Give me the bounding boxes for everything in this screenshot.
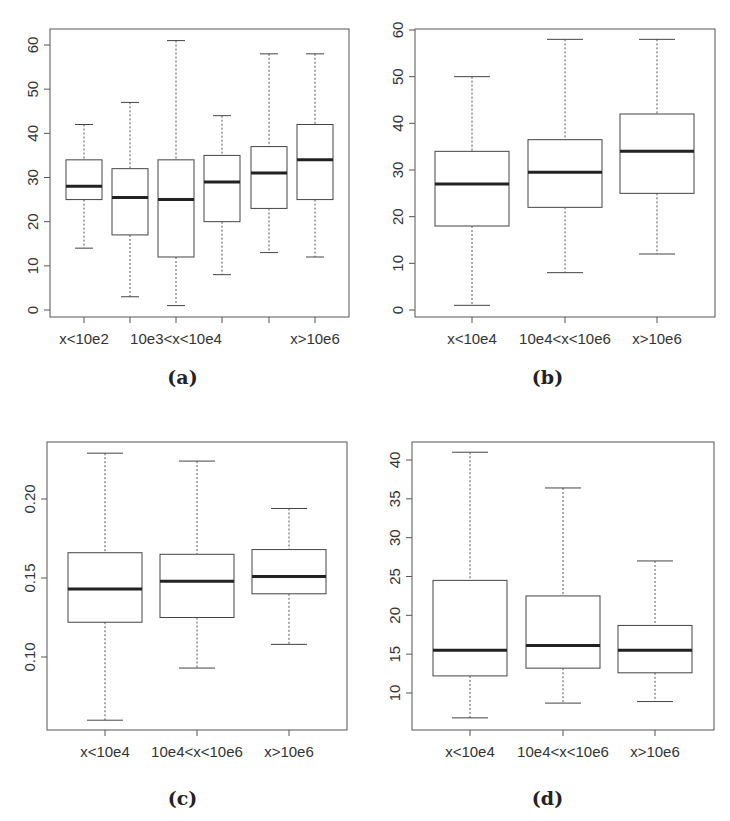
iqr-box [297, 125, 333, 200]
caption-d: (d) [365, 787, 730, 809]
x-tick-label: x>10e6 [290, 330, 340, 347]
y-tick-label: 15 [386, 646, 403, 663]
y-tick-label: 0.10 [21, 642, 38, 671]
caption-c: (c) [0, 787, 365, 809]
y-tick-label: 40 [24, 125, 41, 142]
iqr-box [433, 580, 507, 676]
x-tick-label: x>10e6 [630, 743, 680, 760]
boxplot-b: 0102030405060x<10e410e4<x<10e6x>10e6 [365, 0, 730, 410]
iqr-box [252, 550, 326, 594]
boxplot-d: 10152025303540x<10e410e4<x<10e6x>10e6 [365, 410, 730, 821]
y-tick-label: 25 [386, 568, 403, 585]
iqr-box [251, 147, 287, 209]
x-tick-label: x<10e2 [59, 330, 109, 347]
y-tick-label: 0 [24, 306, 41, 314]
iqr-box [68, 553, 142, 623]
panel-c: 0.100.150.20x<10e410e4<x<10e6x>10e6 (c) [0, 410, 365, 821]
iqr-box [112, 169, 148, 235]
x-tick-label: x<10e4 [80, 743, 130, 760]
y-tick-label: 40 [386, 452, 403, 469]
y-tick-label: 50 [24, 81, 41, 98]
caption-b: (b) [365, 366, 730, 388]
iqr-box [620, 114, 694, 193]
iqr-box [66, 160, 102, 200]
x-tick-label: x<10e4 [445, 743, 495, 760]
y-tick-label: 50 [389, 68, 406, 85]
y-tick-label: 30 [389, 162, 406, 179]
y-tick-label: 20 [389, 208, 406, 225]
y-tick-label: 35 [386, 490, 403, 507]
caption-a: (a) [0, 366, 365, 388]
iqr-box [435, 151, 509, 226]
panel-d: 10152025303540x<10e410e4<x<10e6x>10e6 (d… [365, 410, 730, 821]
panel-b: 0102030405060x<10e410e4<x<10e6x>10e6 (b) [365, 0, 730, 410]
iqr-box [158, 160, 194, 257]
y-tick-label: 40 [389, 115, 406, 132]
x-tick-label: 10e4<x<10e6 [517, 743, 609, 760]
x-tick-label: x>10e6 [632, 330, 682, 347]
y-tick-label: 10 [24, 257, 41, 274]
y-tick-label: 30 [24, 169, 41, 186]
y-tick-label: 10 [386, 685, 403, 702]
y-tick-label: 60 [389, 22, 406, 39]
x-tick-label: 10e4<x<10e6 [519, 330, 611, 347]
x-tick-label: x<10e4 [447, 330, 497, 347]
boxplot-a: 0102030405060x<10e210e3<x<10e4x>10e6 [0, 0, 365, 410]
y-tick-label: 0.20 [21, 484, 38, 513]
iqr-box [526, 596, 600, 668]
y-tick-label: 20 [24, 213, 41, 230]
x-tick-label: x>10e6 [264, 743, 314, 760]
y-tick-label: 10 [389, 255, 406, 272]
boxplot-c: 0.100.150.20x<10e410e4<x<10e6x>10e6 [0, 410, 365, 821]
y-tick-label: 0.15 [21, 563, 38, 592]
y-tick-label: 60 [24, 37, 41, 54]
panel-a: 0102030405060x<10e210e3<x<10e4x>10e6 (a) [0, 0, 365, 410]
x-tick-label: 10e3<x<10e4 [130, 330, 222, 347]
y-tick-label: 0 [389, 306, 406, 314]
iqr-box [160, 554, 234, 617]
iqr-box [204, 155, 240, 221]
y-tick-label: 30 [386, 529, 403, 546]
y-tick-label: 20 [386, 607, 403, 624]
x-tick-label: 10e4<x<10e6 [151, 743, 243, 760]
